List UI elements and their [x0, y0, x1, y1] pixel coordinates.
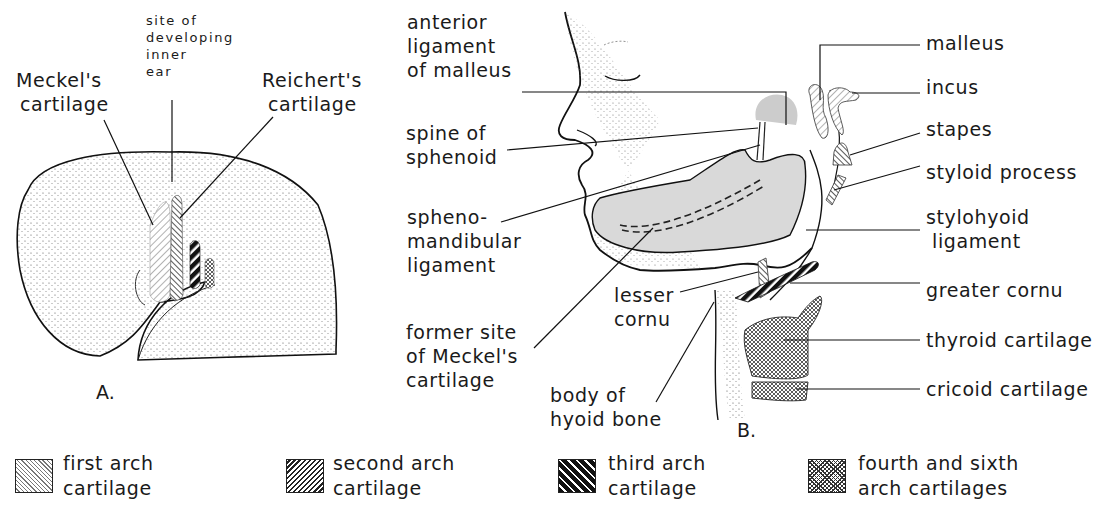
label-cricoid-cartilage: cricoid cartilage — [926, 377, 1089, 401]
head-drawing — [559, 12, 859, 420]
label-lesser-cornu: lesser cornu — [614, 283, 674, 331]
label-thyroid-cartilage: thyroid cartilage — [926, 328, 1093, 352]
label-stylohyoid-ligament: stylohyoid ligament — [926, 205, 1030, 253]
label-former-site-meckels: former site of Meckel's cartilage — [406, 320, 518, 392]
label-incus: incus — [926, 75, 979, 99]
label-greater-cornu: greater cornu — [926, 278, 1063, 302]
label-spine-of-sphenoid: spine of sphenoid — [406, 121, 498, 169]
label-styloid-process: styloid process — [926, 160, 1077, 184]
label-reicherts-cartilage: Reichert's cartilage — [262, 68, 362, 116]
label-stapes: stapes — [926, 117, 992, 141]
label-anterior-ligament: anterior ligament of malleus — [407, 10, 512, 82]
label-inner-ear: site of developing inner ear — [146, 12, 234, 80]
label-body-of-hyoid: body of hyoid bone — [550, 383, 662, 431]
label-malleus: malleus — [926, 31, 1005, 55]
panel-b-letter: B. — [737, 419, 756, 441]
label-sphenomandibular-ligament: spheno- mandibular ligament — [407, 205, 521, 277]
embryo-drawing — [17, 152, 336, 360]
bold-stripe-swatch-icon — [558, 459, 596, 493]
fine-hatch-swatch-icon — [15, 459, 53, 493]
crosshatch-swatch-icon — [808, 459, 846, 493]
dense-hatch-swatch-icon — [286, 459, 324, 493]
label-meckels-cartilage: Meckel's cartilage — [16, 68, 109, 116]
panel-a-letter: A. — [96, 381, 115, 403]
